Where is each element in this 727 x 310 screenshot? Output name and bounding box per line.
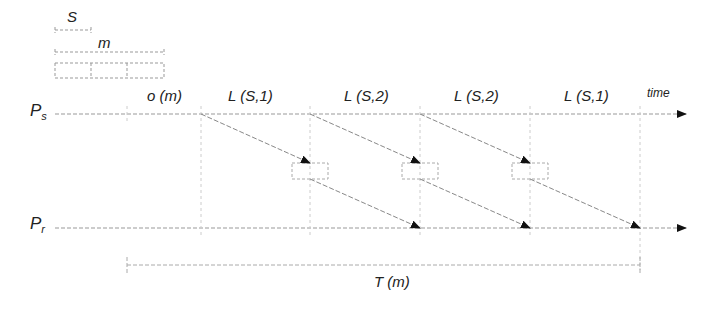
latency-label-3: L (S,2) — [454, 87, 499, 104]
packet-size-label: S — [67, 8, 77, 25]
message-size-label: m — [98, 34, 111, 51]
latency-label-2: L (S,2) — [344, 87, 389, 104]
segment-markers — [127, 106, 640, 270]
latency-label-1: L (S,1) — [228, 87, 273, 104]
receiver-label: Pr — [30, 214, 45, 235]
buffer-boxes — [292, 163, 548, 179]
time-axis-label: time — [647, 86, 670, 100]
latency-label-4: L (S,1) — [564, 87, 609, 104]
overhead-label: o (m) — [147, 87, 182, 104]
sender-label: Ps — [30, 101, 47, 122]
message-cells — [55, 63, 164, 78]
total-time-label: T (m) — [374, 273, 410, 290]
total-time-bracket — [127, 257, 640, 273]
